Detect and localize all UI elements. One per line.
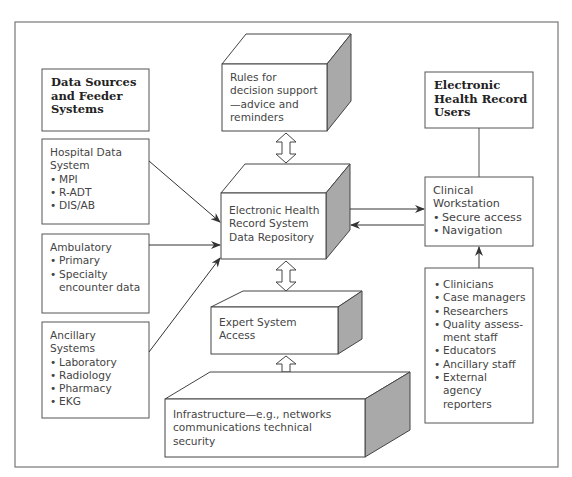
list-item: Specialty <box>50 268 140 281</box>
text-line: Rules for <box>230 71 318 84</box>
hospital-items: MPI R-ADT DIS/AB <box>50 173 122 213</box>
box-title: Ancillary <box>50 329 117 342</box>
list-item-continuation: encounter data <box>50 281 140 294</box>
users-list-text: Clinicians Case managers Researchers Qua… <box>434 278 525 411</box>
text-line: Electronic Health <box>229 204 319 217</box>
box-title: Clinical <box>433 184 522 197</box>
list-item: DIS/AB <box>50 199 122 212</box>
ancillary-items: Laboratory Radiology Pharmacy EKG <box>50 356 117 409</box>
list-item-continuation: agency <box>434 384 525 397</box>
workstation-text: Clinical Workstation Secure access Navig… <box>433 184 522 237</box>
infrastructure-text: Infrastructure—e.g., networks communicat… <box>173 408 331 448</box>
list-item: Navigation <box>433 224 522 237</box>
arrow-infrastructure-to-expert <box>276 356 296 372</box>
users-items: Clinicians Case managers Researchers Qua… <box>434 278 525 331</box>
list-item: External <box>434 371 525 384</box>
list-item: Primary <box>50 254 140 267</box>
list-item: Clinicians <box>434 278 525 291</box>
double-arrow-rules-repository <box>276 133 296 163</box>
ehr-users-header: Electronic Health Record Users <box>434 79 527 120</box>
list-item: Secure access <box>433 211 522 224</box>
rules-text: Rules for decision support —advice and r… <box>230 71 318 124</box>
text-line: decision support <box>230 84 318 97</box>
text-line: Expert System <box>219 316 297 329</box>
box-title: Systems <box>50 342 117 355</box>
list-item: Quality assess- <box>434 318 525 331</box>
text-line: communications technical <box>173 421 331 434</box>
box-title: System <box>50 159 122 172</box>
header-line: and Feeder <box>51 90 136 104</box>
list-item: Ancillary staff <box>434 358 525 371</box>
box-title: Ambulatory <box>50 241 140 254</box>
header-line: Electronic <box>434 79 527 93</box>
expert-text: Expert System Access <box>219 316 297 343</box>
list-item: R-ADT <box>50 186 122 199</box>
text-line: Data Repository <box>229 231 319 244</box>
header-line: Users <box>434 106 527 120</box>
text-line: reminders <box>230 111 318 124</box>
text-line: —advice and <box>230 98 318 111</box>
ancillary-text: Ancillary Systems Laboratory Radiology P… <box>50 329 117 409</box>
list-item: Case managers <box>434 291 525 304</box>
workstation-items: Secure access Navigation <box>433 211 522 238</box>
users-items-cont: Educators Ancillary staff External <box>434 344 525 384</box>
ambulatory-text: Ambulatory Primary Specialty encounter d… <box>50 241 140 294</box>
header-line: Data Sources <box>51 76 136 90</box>
hospital-data-text: Hospital Data System MPI R-ADT DIS/AB <box>50 146 122 212</box>
data-sources-header: Data Sources and Feeder Systems <box>51 76 136 117</box>
list-item: EKG <box>50 395 117 408</box>
double-arrow-repository-expert <box>276 261 296 291</box>
arrow-ancillary-to-repository <box>149 258 220 352</box>
header-line: Health Record <box>434 93 527 107</box>
header-line: Systems <box>51 103 136 117</box>
list-item: Educators <box>434 344 525 357</box>
list-item: Researchers <box>434 305 525 318</box>
arrow-hospital-to-repository <box>149 161 220 222</box>
ambulatory-items: Primary Specialty <box>50 254 140 281</box>
list-item-continuation: ment staff <box>434 331 525 344</box>
list-item: Laboratory <box>50 356 117 369</box>
text-line: Infrastructure—e.g., networks <box>173 408 331 421</box>
list-item-continuation: reporters <box>434 398 525 411</box>
box-title: Hospital Data <box>50 146 122 159</box>
repository-text: Electronic Health Record System Data Rep… <box>229 204 319 244</box>
list-item: Pharmacy <box>50 382 117 395</box>
box-title: Workstation <box>433 197 522 210</box>
list-item: MPI <box>50 173 122 186</box>
text-line: security <box>173 435 331 448</box>
text-line: Access <box>219 329 297 342</box>
text-line: Record System <box>229 217 319 230</box>
list-item: Radiology <box>50 369 117 382</box>
